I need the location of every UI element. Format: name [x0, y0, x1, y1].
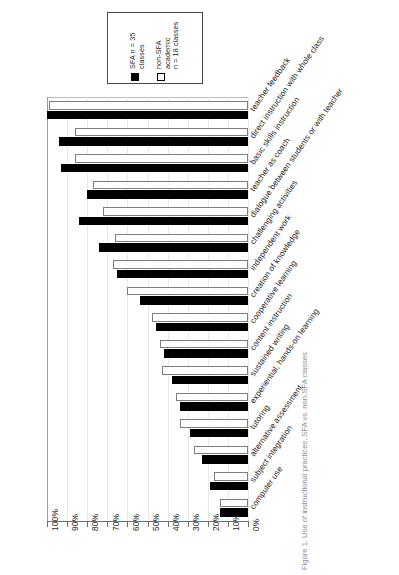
axis-tick: [127, 522, 128, 527]
bar-group: [47, 203, 248, 230]
chart-legend: SFA n = 35 classes non-SFA academic n = …: [107, 12, 203, 84]
bar-sfa: [61, 164, 248, 173]
bar-group: [47, 336, 248, 363]
axis-tick: [188, 522, 189, 527]
bar-sfa: [156, 323, 249, 332]
bar-group: [47, 177, 248, 204]
axis-tick-label: 10%: [231, 514, 241, 531]
axis-tick-label: 20%: [211, 514, 221, 531]
bar-group: [47, 468, 248, 495]
axis-tick-label: 50%: [151, 514, 161, 531]
bar-group: [47, 256, 248, 283]
bar-sfa: [210, 482, 248, 491]
bar-group: [47, 230, 248, 257]
filled-square-icon: [131, 73, 139, 81]
bar-non-sfa: [214, 472, 248, 481]
bar-group: [47, 309, 248, 336]
bar-group: [47, 362, 248, 389]
axis-tick-label: 100%: [50, 509, 60, 531]
legend-item-sfa: SFA n = 35 classes: [129, 15, 146, 81]
axis-tick: [67, 522, 68, 527]
plot-area: [47, 97, 248, 521]
bar-non-sfa: [176, 393, 248, 402]
bar-non-sfa: [75, 128, 248, 137]
bar-group: [47, 283, 248, 310]
bar-non-sfa: [103, 207, 248, 216]
legend-item-non-sfa: non-SFA academic n = 18 classes: [155, 15, 181, 81]
bar-sfa: [117, 270, 248, 279]
bar-sfa: [79, 217, 248, 226]
bar-group: [47, 442, 248, 469]
legend-entries: SFA n = 35 classes non-SFA academic n = …: [129, 15, 181, 81]
bar-sfa: [59, 137, 248, 146]
bar-sfa: [47, 111, 248, 120]
bar-non-sfa: [160, 340, 248, 349]
axis-tick-label: 70%: [111, 514, 121, 531]
axis-tick: [228, 522, 229, 527]
bar-sfa: [180, 402, 248, 411]
axis-tick: [47, 522, 48, 527]
bar-group: [47, 124, 248, 151]
bar-non-sfa: [162, 366, 248, 375]
axis-tick-label: 90%: [70, 514, 80, 531]
bar-sfa: [172, 376, 248, 385]
bar-non-sfa: [115, 234, 248, 243]
bar-group: [47, 97, 248, 124]
legend-label-non-sfa: non-SFA academic n = 18 classes: [155, 21, 181, 69]
axis-tick: [107, 522, 108, 527]
axis-tick: [208, 522, 209, 527]
axis-tick: [148, 522, 149, 527]
hollow-square-icon: [157, 73, 165, 81]
bar-sfa: [190, 429, 248, 438]
axis-tick: [248, 522, 249, 527]
legend-label-sfa: SFA n = 35 classes: [129, 33, 146, 69]
bar-non-sfa: [194, 446, 248, 455]
bar-non-sfa: [113, 260, 248, 269]
axis-tick-label: 80%: [90, 514, 100, 531]
axis-tick-label: 0%: [251, 518, 261, 531]
axis-tick-label: 40%: [171, 514, 181, 531]
bar-sfa: [99, 243, 248, 252]
bar-group: [47, 389, 248, 416]
axis-tick-label: 30%: [191, 514, 201, 531]
bar-sfa: [202, 455, 248, 464]
bar-non-sfa: [93, 181, 248, 190]
axis-tick: [87, 522, 88, 527]
axis-tick-label: 60%: [131, 514, 141, 531]
bar-non-sfa: [127, 287, 248, 296]
figure-caption: Figure 1. Use of instructional practices…: [300, 330, 310, 570]
bar-chart-figure: SFA n = 35 classes non-SFA academic n = …: [0, 0, 399, 575]
bar-sfa: [164, 349, 248, 358]
bar-sfa: [140, 296, 249, 305]
axis-tick: [168, 522, 169, 527]
bar-non-sfa: [49, 101, 248, 110]
bar-non-sfa: [220, 499, 248, 508]
bar-non-sfa: [152, 313, 249, 322]
bar-sfa: [87, 190, 248, 199]
bar-group: [47, 150, 248, 177]
bar-group: [47, 415, 248, 442]
bar-non-sfa: [180, 419, 248, 428]
bar-non-sfa: [75, 154, 248, 163]
